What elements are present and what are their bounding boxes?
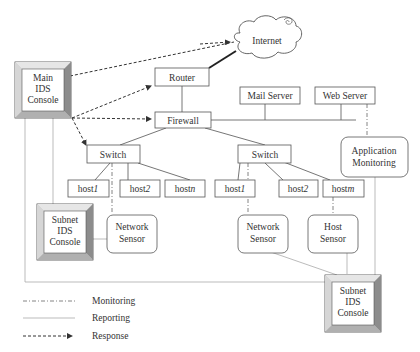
right-host1-node[interactable]: host1 xyxy=(215,180,255,197)
host-label: host xyxy=(332,184,348,194)
sensor-line1: Host xyxy=(324,222,342,232)
router-node[interactable]: Router xyxy=(155,68,209,86)
host-sensor-node[interactable]: Host Sensor xyxy=(308,215,358,253)
switch-right-label: Switch xyxy=(252,150,279,160)
legend-monitoring-label: Monitoring xyxy=(92,296,136,306)
host-index: 2 xyxy=(146,184,151,194)
svg-text:hostn: hostn xyxy=(175,184,196,194)
console-line1: Subnet xyxy=(52,215,79,225)
switch-left-label: Switch xyxy=(100,150,127,160)
app-monitoring-line2: Monitoring xyxy=(352,158,396,168)
switch-right-node[interactable]: Switch xyxy=(238,145,291,163)
host-index: 1 xyxy=(94,184,99,194)
host-index: 2 xyxy=(304,184,309,194)
host-label: host xyxy=(78,184,94,194)
host-index: n xyxy=(191,184,196,194)
host-index: m xyxy=(347,184,354,194)
left-host2-node[interactable]: host2 xyxy=(120,180,160,197)
console-line3: Console xyxy=(49,237,80,247)
host-label: host xyxy=(288,184,304,194)
console-line2: IDS xyxy=(345,297,360,307)
sensor-line2: Sensor xyxy=(119,234,146,244)
right-network-sensor-node[interactable]: Network Sensor xyxy=(238,215,288,253)
firewall-node[interactable]: Firewall xyxy=(155,112,211,128)
ids-architecture-diagram: Internet Router Firewall Mail Server Web… xyxy=(0,0,420,352)
switch-left-node[interactable]: Switch xyxy=(87,145,140,163)
web-server-label: Web Server xyxy=(323,91,368,101)
host-index: 1 xyxy=(241,184,246,194)
router-internet-link xyxy=(209,51,236,68)
main-ids-console[interactable]: Main IDS Console xyxy=(15,62,71,118)
web-server-node[interactable]: Web Server xyxy=(315,87,375,104)
right-host2-node[interactable]: host2 xyxy=(279,180,318,197)
sensor-line1: Network xyxy=(115,222,148,232)
right-hostm-node[interactable]: hostm xyxy=(323,180,364,197)
console-line2: IDS xyxy=(57,226,72,236)
legend-reporting-label: Reporting xyxy=(92,313,130,323)
app-monitoring-node[interactable]: Application Monitoring xyxy=(341,137,408,177)
console-line1: Main xyxy=(33,73,53,83)
mail-server-label: Mail Server xyxy=(247,91,293,101)
svg-text:host2: host2 xyxy=(130,184,151,194)
svg-text:host1: host1 xyxy=(78,184,99,194)
legend: Monitoring Reporting Response xyxy=(23,296,136,341)
left-hostn-node[interactable]: hostn xyxy=(165,180,205,197)
router-label: Router xyxy=(169,73,196,83)
mail-server-node[interactable]: Mail Server xyxy=(240,87,300,104)
svg-text:host2: host2 xyxy=(288,184,309,194)
sensor-line2: Sensor xyxy=(250,234,277,244)
host-label: host xyxy=(130,184,146,194)
console-line1: Subnet xyxy=(340,286,367,296)
svg-text:host1: host1 xyxy=(225,184,246,194)
right-subnet-ids-console[interactable]: Subnet IDS Console xyxy=(325,275,381,332)
internet-label: Internet xyxy=(252,36,282,46)
sensor-line1: Network xyxy=(246,222,279,232)
console-line3: Console xyxy=(337,308,368,318)
left-host1-node[interactable]: host1 xyxy=(68,180,109,197)
host-label: host xyxy=(225,184,241,194)
left-subnet-ids-console[interactable]: Subnet IDS Console xyxy=(37,204,93,260)
app-monitoring-line1: Application xyxy=(352,146,397,156)
console-line2: IDS xyxy=(35,84,50,94)
legend-response-label: Response xyxy=(92,331,128,341)
console-line3: Console xyxy=(27,95,58,105)
svg-text:hostm: hostm xyxy=(332,184,355,194)
firewall-label: Firewall xyxy=(167,116,199,126)
sensor-line2: Sensor xyxy=(320,234,347,244)
left-network-sensor-node[interactable]: Network Sensor xyxy=(107,215,157,253)
host-label: host xyxy=(175,184,191,194)
internet-cloud[interactable]: Internet xyxy=(234,16,301,58)
